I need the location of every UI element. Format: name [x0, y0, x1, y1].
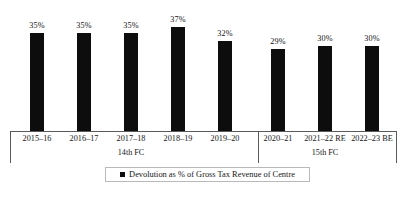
legend-square-marker-icon	[120, 172, 125, 177]
bar[interactable]	[171, 27, 185, 131]
bar[interactable]	[30, 33, 44, 131]
x-axis-label: 2015–16	[12, 133, 62, 144]
bar-value-label: 35%	[64, 21, 104, 30]
bar[interactable]	[218, 41, 232, 131]
chart-legend: Devolution as % of Gross Tax Revenue of …	[105, 167, 310, 182]
x-axis-label: 2017–18	[106, 133, 156, 144]
x-axis-label: 2019–20	[200, 133, 250, 144]
x-axis-label: 2016–17	[59, 133, 109, 144]
bar-chart: 35% 35% 35% 37% 32% 29% 30% 30%	[0, 0, 407, 200]
bar-value-label: 35%	[17, 21, 57, 30]
bar-value-label: 37%	[158, 15, 198, 24]
bar-slot: 37%	[171, 0, 185, 131]
x-axis-label: 2022–23 BE	[343, 133, 401, 144]
bar[interactable]	[77, 33, 91, 131]
x-axis-line	[10, 131, 397, 132]
group-label-15th-fc: 15th FC	[300, 147, 350, 158]
bar-value-label: 32%	[205, 29, 245, 38]
bar-value-label: 35%	[111, 21, 151, 30]
bar-slot: 35%	[30, 0, 44, 131]
plot-area: 35% 35% 35% 37% 32% 29% 30% 30%	[0, 0, 407, 131]
cropped-caption-strip	[0, 192, 407, 200]
legend-label: Devolution as % of Gross Tax Revenue of …	[129, 170, 295, 180]
axis-bracket-left	[10, 131, 11, 163]
bar-slot: 35%	[77, 0, 91, 131]
bar-slot: 29%	[271, 0, 285, 131]
group-label-14th-fc: 14th FC	[106, 147, 156, 158]
bar-slot: 30%	[365, 0, 379, 131]
bar-value-label: 30%	[352, 34, 392, 43]
bar-slot: 30%	[318, 0, 332, 131]
bar-value-label: 29%	[258, 37, 298, 46]
bar[interactable]	[365, 46, 379, 131]
bar-slot: 35%	[124, 0, 138, 131]
x-axis-label: 2018–19	[153, 133, 203, 144]
bar[interactable]	[124, 33, 138, 131]
bar[interactable]	[318, 46, 332, 131]
bar[interactable]	[271, 49, 285, 131]
bar-value-label: 30%	[305, 34, 345, 43]
bar-slot: 32%	[218, 0, 232, 131]
